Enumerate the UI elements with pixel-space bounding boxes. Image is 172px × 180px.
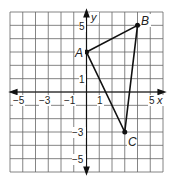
point-c [122,130,127,135]
x-tick-label: 5 [149,95,155,106]
x-tick-label: −3 [39,95,51,106]
x-axis-arrow-left [10,90,17,95]
y-tick-label: −5 [72,154,84,165]
y-tick-label: 5 [79,21,85,32]
point-label-a: A [74,46,83,60]
x-axis-label: x [156,94,163,106]
point-label-c: C [128,135,137,149]
point-label-b: B [141,14,149,28]
y-tick-label: −3 [72,127,84,138]
coordinate-plane: −5 −3 −1 1 5 x 5 1 −3 −5 y A B C [0,0,172,180]
y-axis-arrow-up [84,10,89,17]
x-tick-label: 1 [97,95,103,106]
x-tick-label: −5 [13,95,25,106]
point-b [135,23,140,28]
axes [10,10,165,174]
x-tick-label: −1 [64,95,76,106]
y-tick-label: 1 [79,74,85,85]
y-axis-arrow-down [84,167,89,174]
